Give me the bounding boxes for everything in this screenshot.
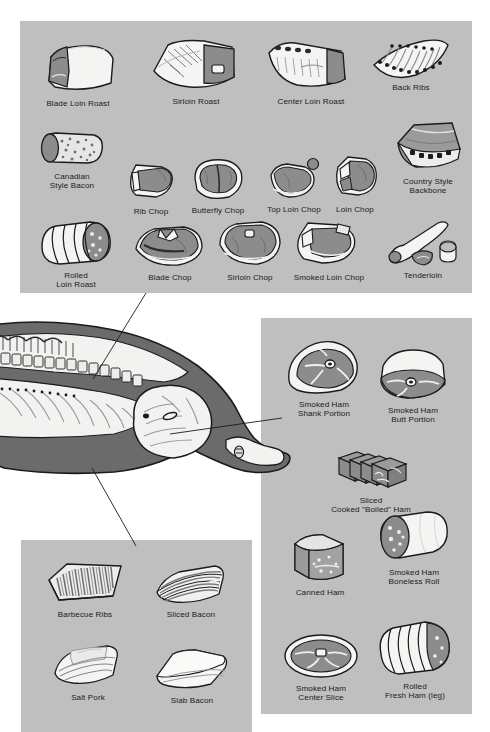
canadian-style-bacon-icon: [32, 126, 112, 170]
rib-chop-icon: [122, 159, 180, 205]
cut-rib-chop[interactable]: Rib Chop: [122, 159, 180, 221]
cut-back-ribs[interactable]: Back Ribs: [368, 31, 454, 103]
cut-label: Smoked Ham Shank Portion: [283, 400, 365, 419]
smoked-ham-center-slice-icon: [279, 630, 363, 682]
cut-label: Rolled Loin Roast: [34, 271, 118, 290]
cut-smoked-ham-shank-portion[interactable]: Smoked Ham Shank Portion: [283, 336, 365, 418]
rolled-loin-roast-icon: [34, 217, 118, 269]
blade-chop-icon: [130, 221, 210, 271]
sliced-bacon-icon: [149, 562, 233, 608]
tenderloin-icon: [384, 217, 462, 271]
cut-smoked-ham-butt-portion[interactable]: Smoked Ham Butt Portion: [373, 346, 453, 424]
cut-smoked-loin-chop[interactable]: Smoked Loin Chop: [286, 217, 372, 291]
cut-sirloin-chop[interactable]: Sirloin Chop: [214, 217, 286, 291]
slab-bacon-icon: [149, 646, 235, 694]
cut-label: Smoked Ham Butt Portion: [373, 406, 453, 425]
cut-smoked-ham-center-slice[interactable]: Smoked Ham Center Slice: [279, 630, 363, 706]
smoked-ham-butt-portion-icon: [373, 346, 453, 404]
loin-chop-icon: [328, 151, 382, 203]
cut-salt-pork[interactable]: Salt Pork: [49, 643, 127, 711]
cut-label: Slab Bacon: [149, 696, 235, 705]
cut-label: Blade Loin Roast: [33, 99, 123, 108]
pork-carcass-diagram: [0, 300, 294, 545]
sirloin-roast-icon: [146, 33, 246, 95]
cut-label: Smoked Loin Chop: [286, 273, 372, 282]
cut-label: Blade Chop: [130, 273, 210, 282]
cut-label: Smoked Ham Center Slice: [279, 684, 363, 703]
cut-country-style-backbone[interactable]: Country Style Backbone: [390, 119, 466, 201]
cut-canned-ham[interactable]: Canned Ham: [283, 530, 357, 606]
cut-label: Back Ribs: [368, 83, 454, 92]
cut-label: Sirloin Chop: [214, 273, 286, 282]
cut-label: Top Loin Chop: [263, 205, 325, 214]
cut-label: Country Style Backbone: [390, 177, 466, 196]
cut-rolled-fresh-ham-leg[interactable]: Rolled Fresh Ham (leg): [371, 618, 459, 704]
cut-rolled-loin-roast[interactable]: Rolled Loin Roast: [34, 217, 118, 293]
cut-blade-chop[interactable]: Blade Chop: [130, 221, 210, 291]
canned-ham-icon: [283, 530, 357, 588]
smoked-ham-shank-portion-icon: [283, 336, 365, 398]
center-loin-roast-icon: [261, 31, 361, 95]
salt-pork-icon: [49, 643, 127, 691]
cut-center-loin-roast[interactable]: Center Loin Roast: [261, 31, 361, 115]
cut-label: Barbecue Ribs: [39, 610, 131, 619]
cut-label: Sirloin Roast: [146, 97, 246, 106]
cut-barbecue-ribs[interactable]: Barbecue Ribs: [39, 558, 131, 628]
blade-loin-roast-icon: [33, 37, 123, 97]
cut-butterfly-chop[interactable]: Butterfly Chop: [187, 154, 249, 220]
cut-tenderloin[interactable]: Tenderloin: [384, 217, 462, 289]
cut-slab-bacon[interactable]: Slab Bacon: [149, 646, 235, 712]
smoked-loin-chop-icon: [286, 217, 372, 271]
top-loin-chop-icon: [263, 155, 325, 203]
cut-sirloin-roast[interactable]: Sirloin Roast: [146, 33, 246, 115]
cut-label: Center Loin Roast: [261, 97, 361, 106]
cut-label: Salt Pork: [49, 693, 127, 702]
cut-sliced-bacon[interactable]: Sliced Bacon: [149, 562, 233, 628]
cut-canadian-style-bacon[interactable]: Canadian Style Bacon: [32, 126, 112, 198]
cut-label: Butterfly Chop: [187, 206, 249, 215]
loin-panel: Blade Loin Roast Sirloin Roast: [20, 21, 472, 293]
sliced-cooked-boiled-ham-icon: [319, 446, 423, 498]
cut-label: Canned Ham: [283, 588, 357, 597]
rolled-fresh-ham-leg-icon: [371, 618, 459, 680]
country-style-backbone-icon: [390, 119, 466, 175]
cut-label: Tenderloin: [384, 271, 462, 280]
cut-blade-loin-roast[interactable]: Blade Loin Roast: [33, 37, 123, 115]
cut-label: Loin Chop: [328, 205, 382, 214]
cut-top-loin-chop[interactable]: Top Loin Chop: [263, 155, 325, 219]
back-ribs-icon: [368, 31, 454, 85]
barbecue-ribs-icon: [39, 558, 131, 608]
butterfly-chop-icon: [187, 154, 249, 204]
cut-label: Rolled Fresh Ham (leg): [371, 682, 459, 701]
cut-loin-chop[interactable]: Loin Chop: [328, 151, 382, 219]
smoked-ham-boneless-roll-icon: [373, 508, 455, 566]
cut-label: Canadian Style Bacon: [32, 172, 112, 191]
cut-label: Sliced Bacon: [149, 610, 233, 619]
cut-label: Smoked Ham Boneless Roll: [373, 568, 455, 587]
sirloin-chop-icon: [214, 217, 286, 271]
cut-label: Rib Chop: [122, 207, 180, 216]
belly-panel: Barbecue Ribs Sliced Bacon: [21, 540, 252, 732]
cut-smoked-ham-boneless-roll[interactable]: Smoked Ham Boneless Roll: [373, 508, 455, 596]
